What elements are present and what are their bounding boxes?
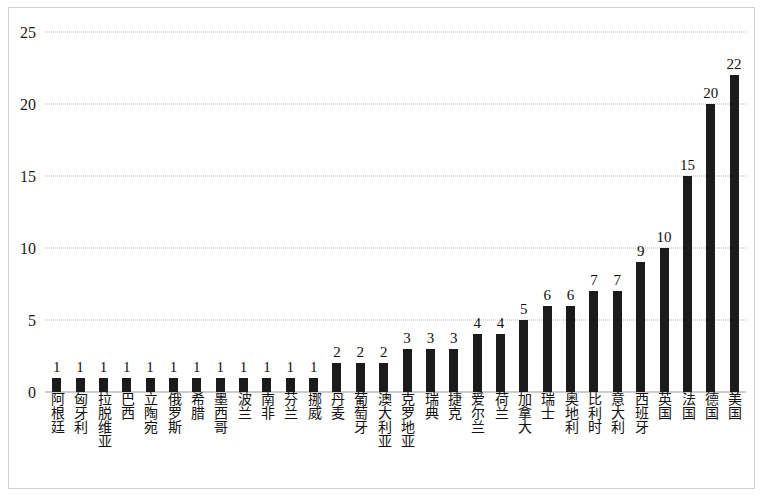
x-axis-label: 阿根廷	[50, 392, 64, 434]
bar-value-label: 15	[680, 158, 695, 173]
bar-value-label: 10	[657, 230, 672, 245]
x-axis-label-slot: 西班牙	[629, 392, 652, 434]
bar-value-label: 2	[333, 345, 341, 360]
x-axis-label: 奥地利	[563, 392, 577, 434]
bar-group: 10	[652, 32, 675, 392]
bar-column: 5	[512, 320, 535, 392]
x-axis-label-slot: 芬兰	[279, 392, 302, 420]
bar	[169, 378, 178, 392]
x-axis-label-slot: 墨西哥	[209, 392, 232, 434]
x-axis-label: 波兰	[236, 392, 250, 420]
bar-column: 7	[582, 291, 605, 392]
bar-value-label: 6	[567, 288, 575, 303]
x-axis-label: 拉脱维亚	[96, 392, 110, 448]
bar	[332, 363, 341, 392]
bar-value-label: 4	[473, 316, 481, 331]
bar-group: 7	[606, 32, 629, 392]
x-axis-label: 法国	[680, 392, 694, 420]
bar-value-label: 1	[287, 360, 295, 375]
bar-group: 1	[279, 32, 302, 392]
bar-value-label: 22	[727, 57, 742, 72]
bar-group: 2	[349, 32, 372, 392]
bar-group: 1	[68, 32, 91, 392]
bar	[496, 334, 505, 392]
bar	[566, 306, 575, 392]
bar-group: 15	[676, 32, 699, 392]
bar	[286, 378, 295, 392]
x-axis-label: 匈牙利	[73, 392, 87, 434]
x-axis-label-slot: 阿根廷	[45, 392, 68, 434]
x-axis-label-slot: 意大利	[606, 392, 629, 434]
bar-group: 1	[232, 32, 255, 392]
x-axis-label: 克罗地亚	[400, 392, 414, 448]
x-axis-label-slot: 澳大利亚	[372, 392, 395, 448]
bar-value-label: 3	[427, 331, 435, 346]
bar	[239, 378, 248, 392]
x-axis-label: 加拿大	[517, 392, 531, 434]
bar-column: 4	[465, 334, 488, 392]
x-axis-label-slot: 葡萄牙	[349, 392, 372, 434]
bar-value-label: 1	[100, 360, 108, 375]
bar-value-label: 2	[380, 345, 388, 360]
bar-value-label: 5	[520, 302, 528, 317]
bar-group: 1	[302, 32, 325, 392]
bar	[99, 378, 108, 392]
x-axis-label-slot: 克罗地亚	[395, 392, 418, 448]
bar	[706, 104, 715, 392]
bar	[52, 378, 61, 392]
bar	[426, 349, 435, 392]
bar-column: 1	[279, 378, 302, 392]
bar-value-label: 1	[216, 360, 224, 375]
bar-group: 6	[536, 32, 559, 392]
x-axis-label: 俄罗斯	[166, 392, 180, 434]
bar	[76, 378, 85, 392]
x-axis-label-slot: 加拿大	[512, 392, 535, 434]
bar-column: 22	[722, 75, 745, 392]
bar	[356, 363, 365, 392]
x-axis-label: 意大利	[610, 392, 624, 434]
x-axis-label: 墨西哥	[213, 392, 227, 434]
bar-group: 20	[699, 32, 722, 392]
bar-value-label: 2	[357, 345, 365, 360]
bar-group: 2	[325, 32, 348, 392]
bar-value-label: 1	[146, 360, 154, 375]
bar-group: 1	[255, 32, 278, 392]
bar-column: 7	[606, 291, 629, 392]
bar-column: 1	[138, 378, 161, 392]
y-axis-tick-10: 10	[20, 241, 45, 257]
bar-value-label: 1	[263, 360, 271, 375]
x-axis-label-slot: 挪威	[302, 392, 325, 420]
x-axis-label: 爱尔兰	[470, 392, 484, 434]
bar-column: 6	[536, 306, 559, 392]
x-axis-label-slot: 希腊	[185, 392, 208, 420]
bar	[613, 291, 622, 392]
x-axis-label-slot: 荷兰	[489, 392, 512, 420]
bar-column: 2	[349, 363, 372, 392]
x-axis-label-slot: 奥地利	[559, 392, 582, 434]
bar-value-label: 6	[543, 288, 551, 303]
bar-value-label: 7	[614, 273, 622, 288]
x-axis-label-slot: 法国	[676, 392, 699, 420]
bar-value-label: 1	[310, 360, 318, 375]
bar	[660, 248, 669, 392]
bar	[309, 378, 318, 392]
bar-column: 3	[442, 349, 465, 392]
bar-column: 2	[325, 363, 348, 392]
bar-column: 1	[255, 378, 278, 392]
bar	[449, 349, 458, 392]
x-axis-label: 捷克	[447, 392, 461, 420]
x-axis-label-slot: 爱尔兰	[465, 392, 488, 434]
bar	[519, 320, 528, 392]
x-axis-label: 丹麦	[330, 392, 344, 420]
bar-group: 3	[442, 32, 465, 392]
y-axis-tick-15: 15	[20, 169, 45, 185]
x-axis-label: 葡萄牙	[353, 392, 367, 434]
bar-value-label: 1	[53, 360, 61, 375]
x-axis-label: 美国	[727, 392, 741, 420]
y-axis-tick-25: 25	[20, 25, 45, 41]
bar-column: 1	[302, 378, 325, 392]
x-axis-label: 澳大利亚	[377, 392, 391, 448]
bar-group: 4	[465, 32, 488, 392]
bar-column: 1	[232, 378, 255, 392]
x-axis-label-slot: 捷克	[442, 392, 465, 420]
